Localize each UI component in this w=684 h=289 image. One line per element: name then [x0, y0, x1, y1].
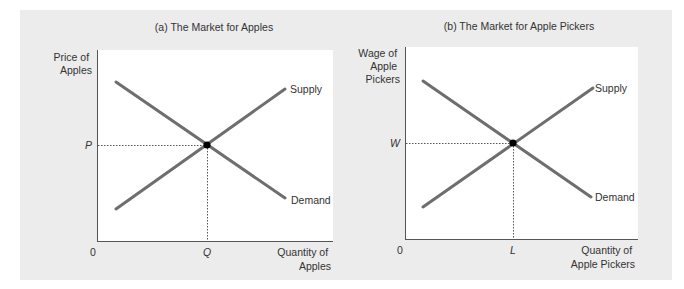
panel-b-title: (b) The Market for Apple Pickers	[444, 20, 594, 32]
panel-a-origin-label: 0	[90, 246, 96, 258]
panel-b-quantity-label: L	[510, 244, 516, 256]
panel-a: (a) The Market for Apples Price of Apple…	[53, 21, 333, 272]
panel-a-quantity-label: Q	[203, 246, 211, 258]
supply-demand-figure: (a) The Market for Apples Price of Apple…	[0, 0, 684, 289]
panel-b-supply-label: Supply	[595, 82, 628, 94]
panel-b-demand-label: Demand	[595, 191, 635, 203]
panel-b-equilibrium-point	[509, 139, 516, 146]
panel-a-price-label: P	[85, 139, 92, 151]
panel-a-supply-label: Supply	[290, 83, 323, 95]
panel-b-x-axis-label: Quantity of Apple Pickers	[571, 244, 635, 270]
panel-b: (b) The Market for Apple Pickers Wage of…	[358, 20, 638, 270]
panel-a-title: (a) The Market for Apples	[155, 21, 273, 33]
panel-a-demand-label: Demand	[291, 194, 331, 206]
panel-b-origin-label: 0	[397, 244, 403, 256]
panel-a-equilibrium-point	[203, 141, 210, 148]
panel-b-wage-label: W	[390, 137, 401, 149]
panel-b-y-axis-label: Wage of Apple Pickers	[358, 47, 400, 85]
panel-a-x-axis-label: Quantity of Apples	[277, 246, 331, 272]
panel-a-y-axis-label: Price of Apples	[53, 51, 92, 76]
